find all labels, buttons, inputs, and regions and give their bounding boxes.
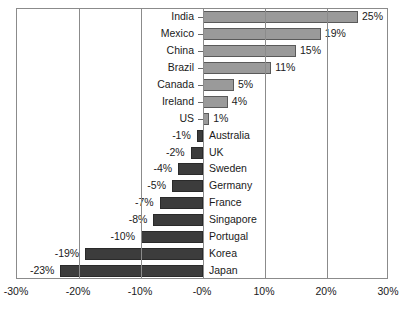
bar-row: France-7% [17, 195, 387, 212]
bar-row: Singapore-8% [17, 212, 387, 229]
x-axis-tick-labels: -30%-20%-10%-0%10%20%30% [0, 285, 403, 305]
bar-india [203, 11, 358, 23]
bar-france [160, 197, 203, 209]
bar-row: Australia-1% [17, 128, 387, 145]
category-label: China [167, 42, 194, 59]
gridline [327, 9, 328, 278]
x-tick-label: 30% [377, 285, 398, 297]
category-label: US [179, 110, 194, 127]
gridline [79, 9, 80, 278]
gridline [203, 9, 204, 278]
x-tick-label: 20% [315, 285, 336, 297]
bar-row: Portugal-10% [17, 229, 387, 246]
category-label: Portugal [209, 228, 248, 245]
value-label: 25% [362, 8, 383, 25]
bar-germany [172, 180, 203, 192]
bar-row: Brazil11% [17, 60, 387, 77]
bar-row: Japan-23% [17, 263, 387, 280]
category-label: Australia [209, 127, 250, 144]
value-label: -5% [147, 177, 166, 194]
category-label: Canada [157, 76, 194, 93]
bar-row: US1% [17, 111, 387, 128]
plot-frame: India25%Mexico19%China15%Brazil11%Canada… [16, 8, 388, 279]
bar-korea [85, 248, 203, 260]
bar-singapore [153, 214, 203, 226]
value-label: -1% [172, 127, 191, 144]
bar-row: China15% [17, 43, 387, 60]
bar-row: Sweden-4% [17, 161, 387, 178]
value-label: -10% [110, 228, 135, 245]
bar-canada [203, 79, 234, 91]
gridline [265, 9, 266, 278]
bar-mexico [203, 28, 321, 40]
value-label: -19% [55, 245, 80, 262]
category-label: France [209, 194, 242, 211]
bar-sweden [178, 163, 203, 175]
bar-japan [60, 265, 203, 277]
x-tick-label: -0% [193, 285, 212, 297]
plot-area: India25%Mexico19%China15%Brazil11%Canada… [17, 9, 387, 278]
category-label: Ireland [162, 93, 194, 110]
value-label: 15% [300, 42, 321, 59]
x-tick-label: -20% [66, 285, 91, 297]
bar-china [203, 45, 296, 57]
bar-portugal [141, 231, 203, 243]
category-label: Japan [209, 262, 238, 279]
value-label: -8% [129, 211, 148, 228]
category-label: India [171, 8, 194, 25]
bar-uk [191, 147, 203, 159]
x-tick-label: -10% [128, 285, 153, 297]
value-label: -7% [135, 194, 154, 211]
value-label: 11% [275, 59, 295, 76]
category-label: Singapore [209, 211, 257, 228]
bar-row: Canada5% [17, 77, 387, 94]
bar-row: UK-2% [17, 145, 387, 162]
value-label: 4% [232, 93, 247, 110]
bar-row: Korea-19% [17, 246, 387, 263]
value-label: 1% [213, 110, 228, 127]
bar-row: Germany-5% [17, 178, 387, 195]
value-label: 5% [238, 76, 253, 93]
value-label: -4% [154, 160, 173, 177]
x-tick-label: 10% [253, 285, 274, 297]
bar-row: India25% [17, 9, 387, 26]
category-label: Korea [209, 245, 237, 262]
category-label: Mexico [161, 25, 194, 42]
category-label: Germany [209, 177, 252, 194]
bar-ireland [203, 96, 228, 108]
category-label: Brazil [168, 59, 194, 76]
x-tick-label: -30% [4, 285, 29, 297]
value-label: -23% [30, 262, 55, 279]
category-label: UK [209, 144, 224, 161]
category-label: Sweden [209, 160, 247, 177]
value-label: -2% [166, 144, 185, 161]
bar-chart: India25%Mexico19%China15%Brazil11%Canada… [0, 0, 403, 310]
gridline [141, 9, 142, 278]
bar-brazil [203, 62, 271, 74]
bar-row: Ireland4% [17, 94, 387, 111]
bar-row: Mexico19% [17, 26, 387, 43]
